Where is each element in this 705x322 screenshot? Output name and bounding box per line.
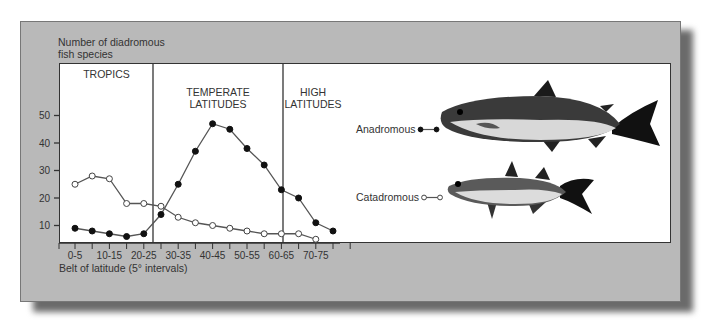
anadromous-marker bbox=[158, 212, 164, 218]
catadromous-marker bbox=[261, 231, 267, 237]
catadromous-marker bbox=[296, 231, 302, 237]
x-tick-label: 60-65 bbox=[269, 250, 295, 261]
axes: 0-510-1520-2530-3540-4550-5560-6570-7510… bbox=[39, 110, 350, 261]
fish-illustrations bbox=[441, 80, 660, 219]
y-tick-label: 30 bbox=[39, 165, 51, 176]
anadromous-marker bbox=[106, 231, 112, 237]
x-tick-label: 20-25 bbox=[131, 250, 157, 261]
anadromous-marker bbox=[330, 228, 336, 234]
catadromous-marker bbox=[244, 228, 250, 234]
filled-circle-icon bbox=[434, 127, 439, 132]
catadromous-marker bbox=[141, 201, 147, 207]
anadromous-marker bbox=[261, 162, 267, 168]
anadromous-marker bbox=[313, 220, 319, 226]
zone-dividers bbox=[153, 63, 283, 243]
catadromous-marker bbox=[278, 231, 284, 237]
x-tick-label: 10-15 bbox=[97, 250, 123, 261]
legend-label: Catadromous bbox=[356, 191, 419, 203]
catadromous-marker bbox=[124, 201, 130, 207]
catadromous-marker bbox=[158, 203, 164, 209]
anadromous-marker bbox=[192, 148, 198, 154]
anadromous-marker bbox=[141, 231, 147, 237]
salmon-illustration bbox=[441, 80, 660, 152]
anadromous-line bbox=[75, 124, 333, 237]
filled-circle-icon bbox=[418, 127, 423, 132]
open-circle-icon bbox=[438, 195, 443, 200]
x-tick-label: 40-45 bbox=[200, 250, 226, 261]
mullet-illustration bbox=[448, 161, 594, 219]
anadromous-marker bbox=[175, 181, 181, 187]
catadromous-marker bbox=[89, 173, 95, 179]
anadromous-marker bbox=[124, 234, 130, 240]
open-circle-icon bbox=[422, 195, 427, 200]
anadromous-marker bbox=[278, 187, 284, 193]
series-group bbox=[72, 121, 336, 243]
catadromous-marker bbox=[72, 181, 78, 187]
y-tick-label: 10 bbox=[39, 220, 51, 231]
anadromous-marker bbox=[296, 195, 302, 201]
catadromous-marker bbox=[192, 220, 198, 226]
x-tick-label: 70-75 bbox=[303, 250, 329, 261]
catadromous-marker bbox=[106, 176, 112, 182]
x-tick-label: 50-55 bbox=[234, 250, 260, 261]
catadromous-marker bbox=[175, 214, 181, 220]
x-tick-label: 0-5 bbox=[68, 250, 83, 261]
legend: AnadromousCatadromous bbox=[356, 123, 442, 203]
catadromous-marker bbox=[313, 236, 319, 242]
legend-label: Anadromous bbox=[356, 123, 416, 135]
x-tick-label: 30-35 bbox=[165, 250, 191, 261]
catadromous-marker bbox=[227, 225, 233, 231]
anadromous-marker bbox=[210, 121, 216, 127]
x-axis-label: Belt of latitude (5° intervals) bbox=[59, 262, 188, 274]
y-tick-label: 50 bbox=[39, 110, 51, 121]
anadromous-marker bbox=[72, 225, 78, 231]
anadromous-marker bbox=[244, 146, 250, 152]
y-tick-label: 40 bbox=[39, 138, 51, 149]
catadromous-marker bbox=[210, 223, 216, 229]
y-tick-label: 20 bbox=[39, 193, 51, 204]
anadromous-marker bbox=[89, 228, 95, 234]
anadromous-marker bbox=[227, 126, 233, 132]
catadromous-line bbox=[75, 176, 316, 239]
